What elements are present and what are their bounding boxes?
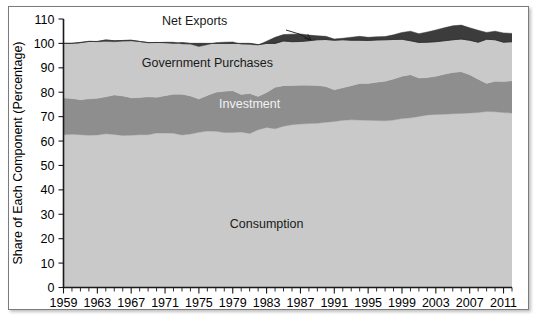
x-tick-label: 1991	[320, 296, 348, 310]
figure-container: 0102030405060708090100110 19591963196719…	[0, 0, 539, 322]
government-purchases-label: Government Purchases	[142, 56, 273, 70]
y-tick-label: 110	[35, 13, 55, 27]
x-tick-label: 2003	[422, 296, 450, 310]
y-tick-label: 50	[41, 159, 55, 173]
y-tick-label: 10	[41, 257, 55, 271]
y-axis-tick-labels: 0102030405060708090100110	[34, 13, 55, 296]
x-tick-label: 1959	[50, 296, 78, 310]
y-tick-label: 60	[41, 135, 55, 149]
y-tick-label: 90	[41, 61, 55, 75]
x-tick-label: 1975	[185, 296, 213, 310]
x-tick-label: 1987	[287, 296, 315, 310]
x-tick-label: 2007	[456, 296, 484, 310]
series-area-consumption	[64, 112, 513, 288]
x-tick-label: 1971	[151, 296, 179, 310]
x-tick-label: 2011	[490, 296, 517, 310]
x-tick-label: 1979	[219, 296, 247, 310]
stacked-area-chart: 0102030405060708090100110 19591963196719…	[0, 0, 539, 322]
y-axis-title: Share of Each Component (Percentage)	[11, 41, 25, 264]
plot-areas	[64, 25, 513, 287]
consumption-label: Consumption	[230, 217, 304, 231]
x-tick-label: 1963	[83, 296, 111, 310]
y-tick-label: 30	[41, 208, 55, 222]
y-tick-label: 100	[34, 37, 55, 51]
y-tick-label: 20	[41, 232, 55, 246]
y-tick-label: 70	[41, 110, 55, 124]
investment-label: Investment	[219, 97, 281, 111]
y-tick-label: 0	[48, 281, 55, 295]
x-axis-tick-labels: 1959196319671971197519791983198719911995…	[50, 296, 517, 310]
x-tick-label: 1983	[253, 296, 281, 310]
x-tick-label: 1967	[117, 296, 145, 310]
x-tick-label: 1995	[354, 296, 382, 310]
net-exports-label: Net Exports	[162, 14, 227, 28]
y-tick-label: 80	[41, 86, 55, 100]
y-tick-label: 40	[41, 183, 55, 197]
x-tick-label: 1999	[388, 296, 416, 310]
